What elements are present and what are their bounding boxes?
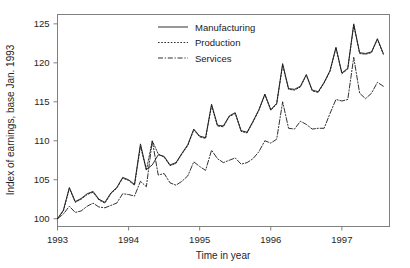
legend-label-production: Production: [195, 37, 240, 48]
y-tick-label: 125: [34, 18, 50, 29]
y-tick-label: 120: [34, 57, 50, 68]
y-tick-label: 105: [34, 174, 50, 185]
x-tick-label: 1996: [260, 234, 281, 245]
legend-label-manufacturing: Manufacturing: [195, 22, 255, 33]
x-tick-label: 1995: [189, 234, 210, 245]
x-axis-title: Time in year: [196, 250, 251, 261]
x-tick-label: 1993: [47, 234, 68, 245]
line-chart: 100105110115120125 19931994199519961997 …: [0, 0, 410, 268]
y-tick-label: 100: [34, 213, 50, 224]
x-tick-label: 1994: [118, 234, 139, 245]
x-tick-label: 1997: [331, 234, 352, 245]
y-tick-label: 110: [34, 135, 49, 146]
y-axis-title: Index of earnings, base Jan. 1993: [5, 44, 16, 195]
chart-figure: 100105110115120125 19931994199519961997 …: [0, 0, 410, 268]
y-tick-label: 115: [34, 96, 49, 107]
legend-label-services: Services: [195, 53, 232, 64]
